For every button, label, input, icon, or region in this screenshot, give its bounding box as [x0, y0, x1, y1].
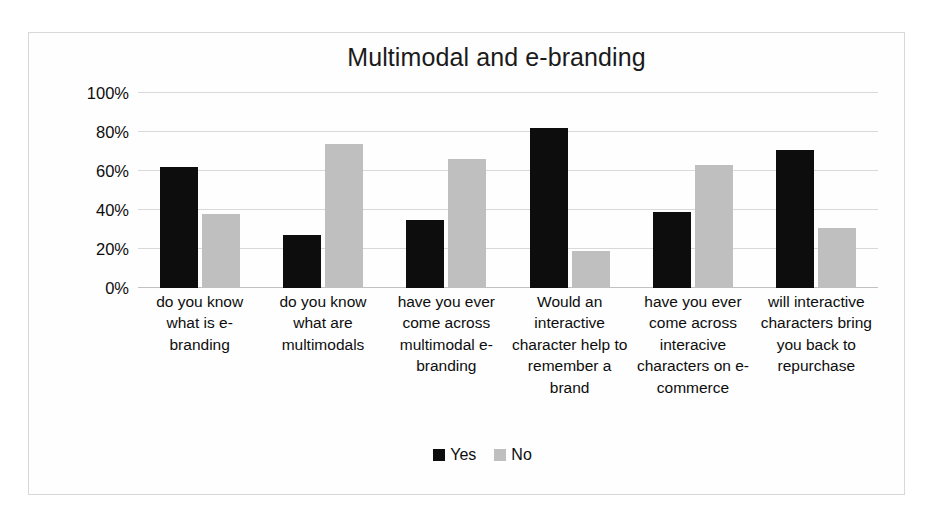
bar-no[interactable] — [202, 214, 240, 288]
chart-title: Multimodal and e-branding — [29, 43, 904, 72]
bar-yes[interactable] — [776, 150, 814, 288]
bar-yes[interactable] — [530, 128, 568, 288]
y-axis-tick-label: 0% — [105, 279, 129, 298]
bar-no[interactable] — [695, 165, 733, 288]
bar-no[interactable] — [325, 144, 363, 288]
bar-no[interactable] — [448, 159, 486, 288]
legend-label: Yes — [450, 446, 476, 464]
bar-no[interactable] — [572, 251, 610, 288]
bar-group — [385, 93, 508, 288]
bars-layer — [138, 93, 878, 288]
x-axis-label: have you ever come across interacive cha… — [631, 291, 754, 398]
legend-item[interactable]: No — [494, 446, 531, 464]
x-axis-label: will interactive characters bring you ba… — [755, 291, 878, 377]
legend-swatch-no-icon — [494, 449, 506, 461]
bar-group — [755, 93, 878, 288]
bar-yes[interactable] — [406, 220, 444, 288]
bar-group — [631, 93, 754, 288]
bar-yes[interactable] — [653, 212, 691, 288]
y-axis-tick-label: 20% — [96, 240, 129, 259]
y-axis-tick-label: 40% — [96, 201, 129, 220]
x-axis-label: do you know what is e-branding — [138, 291, 261, 355]
legend-swatch-yes-icon — [433, 449, 445, 461]
x-axis-label: have you ever come across multimodal e-b… — [385, 291, 508, 377]
y-axis-tick-label: 100% — [87, 84, 129, 103]
y-axis: 100%80%60%40%20%0% — [57, 93, 129, 288]
chart-container: Multimodal and e-branding 100%80%60%40%2… — [28, 32, 905, 495]
bar-no[interactable] — [818, 228, 856, 288]
bar-yes[interactable] — [160, 167, 198, 288]
x-axis-label: do you know what are multimodals — [261, 291, 384, 355]
bar-group — [261, 93, 384, 288]
y-axis-tick-label: 60% — [96, 162, 129, 181]
chart-legend: YesNo — [29, 446, 906, 464]
x-axis-label: Would an interactive character help to r… — [508, 291, 631, 398]
bar-group — [138, 93, 261, 288]
legend-item[interactable]: Yes — [433, 446, 476, 464]
bar-group — [508, 93, 631, 288]
bar-yes[interactable] — [283, 235, 321, 288]
legend-label: No — [511, 446, 531, 464]
y-axis-tick-label: 80% — [96, 123, 129, 142]
x-axis-category-labels: do you know what is e-brandingdo you kno… — [138, 291, 878, 398]
